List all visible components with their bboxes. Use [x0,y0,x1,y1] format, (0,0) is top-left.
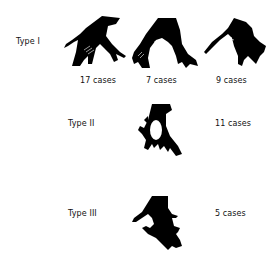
type-1c-branching-shape [204,16,268,72]
type-3-branching-shape [132,196,188,254]
type-1c-case-count: 9 cases [216,76,247,86]
type-2-case-count: 11 cases [215,119,251,129]
type-1b-branching-shape [128,16,200,72]
type-3-case-count: 5 cases [215,209,246,219]
type-1b-case-count: 7 cases [146,76,177,86]
type-1a-case-count: 17 cases [80,76,116,86]
type-1a-branching-shape [62,14,130,70]
type-2-label: Type II [68,119,94,129]
type-2-branching-shape [134,102,190,158]
type-3-label: Type III [68,209,97,219]
type-1-label: Type I [16,37,40,47]
